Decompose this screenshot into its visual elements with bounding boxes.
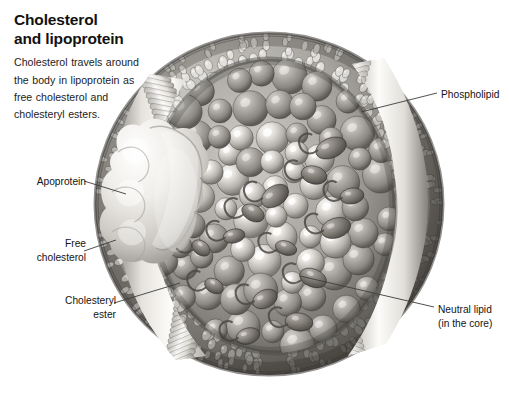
label-neutral-lipid-line-1: Neutral lipid <box>438 303 492 317</box>
label-cholesteryl-ester: Cholesteryl ester <box>0 294 116 322</box>
label-cholesteryl-ester-line-1: Cholesteryl <box>0 294 116 308</box>
label-cholesteryl-ester-line-2: ester <box>0 308 116 322</box>
label-phospholipid-text: Phospholipid <box>441 89 499 100</box>
label-free-cholesterol-line-1: Free <box>0 237 86 251</box>
label-apoprotein: Apoprotein <box>0 175 86 189</box>
intro-paragraph: Cholesterol travels around the body in l… <box>14 54 146 123</box>
label-free-cholesterol-line-2: cholesterol <box>0 251 86 265</box>
label-phospholipid: Phospholipid <box>441 88 499 102</box>
illustration-page: Cholesterol and lipoprotein Cholesterol … <box>0 0 509 394</box>
label-neutral-lipid-line-2: (in the core) <box>438 317 492 331</box>
page-title-line-1: Cholesterol <box>14 11 98 28</box>
intro-text-block: Cholesterol and lipoprotein Cholesterol … <box>14 10 146 124</box>
label-free-cholesterol: Free cholesterol <box>0 237 86 265</box>
label-neutral-lipid: Neutral lipid (in the core) <box>438 303 492 331</box>
page-title: Cholesterol and lipoprotein <box>14 10 146 48</box>
page-title-line-2: and lipoprotein <box>14 30 124 47</box>
label-apoprotein-text: Apoprotein <box>37 176 86 187</box>
